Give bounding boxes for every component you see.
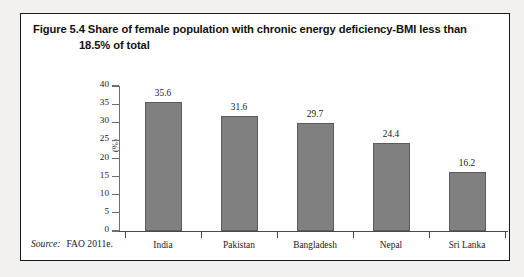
- source-note: Source:FAO 2011e.: [31, 238, 113, 249]
- y-axis-tick-label: 10: [100, 188, 109, 198]
- bar[interactable]: [297, 123, 334, 231]
- x-axis-category-label: India: [123, 240, 203, 250]
- bar-value-label: 35.6: [133, 88, 193, 98]
- figure-title-line-1: Figure 5.4 Share of female population wi…: [33, 23, 467, 35]
- x-axis-category-label: Sri Lanka: [427, 240, 507, 250]
- y-axis-tick-label: 15: [100, 170, 109, 180]
- y-axis-tick: [112, 212, 119, 213]
- figure-title-line-2: 18.5% of total: [33, 38, 499, 54]
- bar-value-label: 29.7: [285, 109, 345, 119]
- plot-area: (%) 0510152025303540 35.631.629.724.416.…: [99, 80, 509, 235]
- x-axis-tick: [201, 231, 202, 238]
- y-axis-tick-label: 20: [100, 152, 109, 162]
- y-axis-tick: [112, 230, 119, 231]
- y-axis-tick: [112, 122, 119, 123]
- bar[interactable]: [373, 143, 410, 231]
- y-axis-tick: [112, 85, 119, 86]
- y-axis-tick: [112, 104, 119, 105]
- bar-value-label: 24.4: [361, 129, 421, 139]
- y-axis-tick: [112, 158, 119, 159]
- x-axis-tick: [125, 231, 126, 238]
- y-axis-tick-label: 35: [100, 97, 109, 107]
- x-axis-category-label: Bangladesh: [275, 240, 355, 250]
- bar-value-label: 31.6: [209, 102, 269, 112]
- x-axis-tick: [429, 231, 430, 238]
- source-value: FAO 2011e.: [66, 238, 112, 249]
- x-axis-tick: [353, 231, 354, 238]
- bar[interactable]: [221, 116, 258, 231]
- x-axis-category-label: Pakistan: [199, 240, 279, 250]
- y-axis-tick-label: 40: [100, 79, 109, 89]
- y-axis-tick-label: 25: [100, 133, 109, 143]
- y-axis-tick: [112, 176, 119, 177]
- y-axis-tick-label: 5: [104, 206, 109, 216]
- bar[interactable]: [449, 172, 486, 231]
- x-axis-tick: [505, 231, 506, 238]
- x-axis-category-label: Nepal: [351, 240, 431, 250]
- x-axis-line: [119, 231, 508, 232]
- y-axis-tick: [112, 194, 119, 195]
- y-axis-tick-label: 30: [100, 115, 109, 125]
- figure-page: Figure 5.4 Share of female population wi…: [0, 0, 524, 277]
- source-label: Source:: [31, 238, 60, 249]
- y-axis-line: [119, 86, 120, 232]
- y-axis-tick: [112, 140, 119, 141]
- figure-title: Figure 5.4 Share of female population wi…: [33, 22, 499, 53]
- bar[interactable]: [145, 102, 182, 231]
- figure-frame: Figure 5.4 Share of female population wi…: [20, 13, 510, 261]
- bar-value-label: 16.2: [437, 158, 497, 168]
- y-axis-tick-label: 0: [104, 224, 109, 234]
- x-axis-tick: [277, 231, 278, 238]
